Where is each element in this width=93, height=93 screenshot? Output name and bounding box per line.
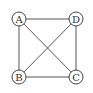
node-label: C bbox=[72, 72, 80, 83]
node-d: D bbox=[69, 12, 83, 26]
edges-group bbox=[19, 19, 76, 77]
node-c: C bbox=[69, 70, 83, 84]
graph-diagram: ABCD bbox=[0, 0, 93, 93]
node-a: A bbox=[12, 12, 26, 26]
node-label: B bbox=[15, 72, 22, 83]
node-label: A bbox=[14, 14, 23, 25]
node-b: B bbox=[12, 70, 26, 84]
node-label: D bbox=[72, 14, 80, 25]
